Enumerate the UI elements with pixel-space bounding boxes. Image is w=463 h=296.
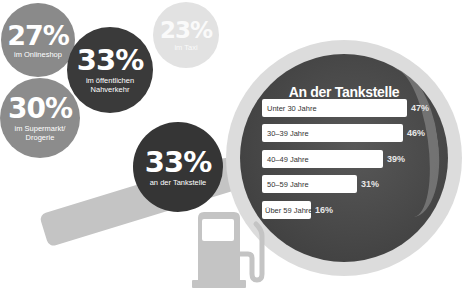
bar-row: 40–49 Jahre 39% (262, 150, 405, 168)
stat-label-line-1: im Supermarkt/ (15, 124, 66, 133)
bar-row: 30–39 Jahre 46% (262, 124, 425, 142)
bar-label: Unter 30 Jahre (267, 104, 317, 113)
bar-value: 47% (411, 103, 429, 113)
stat-circle-taxi: 23% im Taxi (153, 2, 219, 68)
stat-label: im Taxi (174, 43, 197, 52)
stat-label: an der Tankstelle (150, 178, 207, 187)
stat-circle-nahverkehr: 33% im öffentlichen Nahverkehr (67, 27, 153, 113)
bar-value: 46% (407, 128, 425, 138)
bar-label: 30–39 Jahre (267, 129, 309, 138)
stat-value: 27% (7, 22, 69, 49)
chart-title: An der Tankstelle (240, 84, 448, 100)
bar: 40–49 Jahre (262, 150, 383, 168)
bar-row: Über 59 Jahre 16% (262, 201, 333, 219)
bar-row: Unter 30 Jahre 47% (262, 99, 429, 117)
stat-label-line-1: im öffentlichen (86, 76, 134, 85)
bar-value: 16% (315, 205, 333, 215)
stat-value: 30% (8, 95, 72, 123)
stat-label-line-2: Nahverkehr (91, 85, 130, 94)
bar-label: 40–49 Jahre (267, 155, 309, 164)
stat-circle-supermarkt: 30% im Supermarkt/ Drogerie (0, 78, 80, 158)
bar: 50–59 Jahre (262, 175, 357, 193)
stat-value: 33% (77, 46, 143, 75)
bar-label: Über 59 Jahre (265, 206, 313, 215)
fuel-pump-icon (186, 208, 268, 292)
stat-value: 33% (145, 148, 211, 177)
stat-value: 23% (160, 19, 212, 42)
stat-circle-tankstelle: 33% an der Tankstelle (133, 122, 223, 212)
stat-label: im Onlineshop (14, 50, 62, 59)
bar-label: 50–59 Jahre (267, 180, 309, 189)
bar: Unter 30 Jahre (262, 99, 407, 117)
stat-label-line-2: Drogerie (26, 133, 55, 142)
bar-row: 50–59 Jahre 31% (262, 175, 379, 193)
stat-circle-onlineshop: 27% im Onlineshop (1, 3, 75, 77)
bar-value: 31% (361, 179, 379, 189)
bar: Über 59 Jahre (262, 201, 311, 219)
bar: 30–39 Jahre (262, 124, 403, 142)
bar-value: 39% (387, 154, 405, 164)
